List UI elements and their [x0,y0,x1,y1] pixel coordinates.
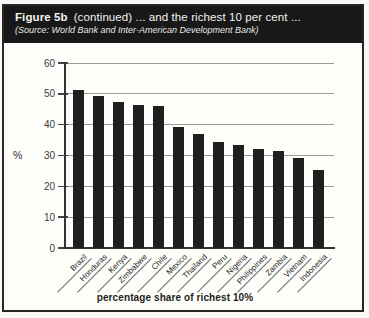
bar [193,134,204,248]
y-axis-line [64,62,66,248]
bar [153,106,164,248]
bar [113,102,124,248]
figure-page: Figure 5b(continued) ... and the richest… [0,0,369,318]
y-tick-label: 50 [24,87,55,100]
y-tick [58,124,68,126]
bar [253,149,264,248]
figure-source-text: (Source: World Bank and Inter-American D… [15,25,362,36]
y-tick [58,62,68,64]
y-tick [58,216,68,218]
y-tick [58,186,68,188]
bar [133,105,144,248]
bar [173,127,184,248]
gridline [65,124,334,125]
y-tick-label: 40 [24,118,55,131]
y-tick-label: 10 [24,211,55,224]
x-axis-caption: percentage share of richest 10% [40,292,310,303]
y-tick-label: 60 [24,57,55,70]
bar [233,145,244,248]
y-tick-label: 30 [24,149,55,162]
figure-title-text: (continued) ... and the richest 10 per c… [74,11,301,23]
gridline [65,93,334,94]
y-tick-label: 0 [24,242,55,255]
bar [93,96,104,248]
y-tick [58,93,68,95]
bar [73,90,84,248]
y-axis-label: % [13,149,22,161]
bar [213,142,224,248]
y-tick-label: 20 [24,180,55,193]
gridline [65,63,334,64]
figure-header: Figure 5b(continued) ... and the richest… [4,6,362,43]
bar [313,170,324,248]
bar [293,158,304,248]
bar [273,151,284,248]
figure-number-label: Figure 5b [15,11,68,23]
figure-title-line: Figure 5b(continued) ... and the richest… [15,11,362,24]
y-tick [58,155,68,157]
